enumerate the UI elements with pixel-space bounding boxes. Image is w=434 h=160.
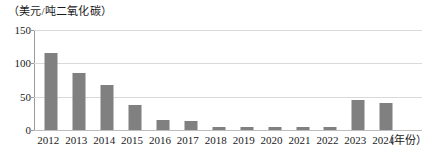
bar-2014 bbox=[101, 85, 114, 130]
y-tick-label-0: 0 bbox=[5, 125, 31, 136]
x-axis-unit-label: （年份） bbox=[383, 133, 427, 147]
bar-slot bbox=[261, 30, 289, 130]
bar-2017 bbox=[184, 121, 197, 130]
x-axis-tick-labels: 2012201320142015201620172018201920202021… bbox=[34, 133, 422, 153]
bar-2012 bbox=[45, 53, 58, 130]
y-axis-tick-labels: 050100150 bbox=[0, 0, 31, 160]
bar-slot bbox=[344, 30, 372, 130]
bar-2024 bbox=[380, 103, 393, 130]
bar-slot bbox=[289, 30, 317, 130]
bar-slot bbox=[233, 30, 261, 130]
bar-2019 bbox=[240, 127, 253, 130]
bar-chart-figure: （美元/吨二氧化碳） 050100150 2012201320142015201… bbox=[0, 0, 434, 160]
bar-slot bbox=[205, 30, 233, 130]
bar-slot bbox=[121, 30, 149, 130]
bar-slot bbox=[316, 30, 344, 130]
bar-2013 bbox=[73, 73, 86, 130]
bars-layer bbox=[34, 30, 422, 130]
bar-slot bbox=[93, 30, 121, 130]
y-tick-mark-150 bbox=[30, 30, 34, 31]
y-tick-label-150: 150 bbox=[5, 25, 31, 36]
bar-slot bbox=[65, 30, 93, 130]
bar-2016 bbox=[156, 120, 169, 130]
y-tick-mark-100 bbox=[30, 63, 34, 64]
bar-2023 bbox=[352, 100, 365, 130]
bar-slot bbox=[177, 30, 205, 130]
y-tick-mark-50 bbox=[30, 97, 34, 98]
y-tick-label-50: 50 bbox=[5, 92, 31, 103]
y-tick-mark-0 bbox=[30, 130, 34, 131]
bar-slot bbox=[37, 30, 65, 130]
bar-2020 bbox=[268, 127, 281, 130]
bar-2018 bbox=[212, 127, 225, 130]
gridline-0 bbox=[34, 130, 422, 131]
bar-slot bbox=[372, 30, 400, 130]
bar-slot bbox=[149, 30, 177, 130]
bar-2021 bbox=[296, 127, 309, 130]
bar-2015 bbox=[129, 105, 142, 130]
y-tick-label-100: 100 bbox=[5, 58, 31, 69]
bar-2022 bbox=[324, 127, 337, 130]
